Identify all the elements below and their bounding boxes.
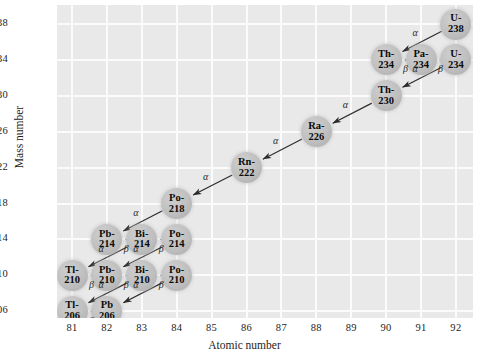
x-tick-label: 84 — [162, 322, 192, 333]
nuclide-mass-number: 206 — [64, 311, 80, 318]
nuclide-node-bi-210: Bi-210 — [126, 260, 157, 291]
x-tick-label: 92 — [441, 322, 471, 333]
y-tick-label: 218 — [0, 197, 8, 208]
decay-label-alpha: α — [133, 278, 138, 289]
y-tick-value: 214 — [0, 232, 8, 243]
y-tick-label: 210 — [0, 268, 8, 279]
decay-label-alpha: α — [133, 206, 138, 217]
y-tick-label: 206 — [0, 304, 8, 315]
y-tick-value: 226 — [0, 125, 8, 136]
nuclide-node-po-218: Po-218 — [161, 188, 192, 219]
x-tick-label: 86 — [232, 322, 262, 333]
y-tick-value: 230 — [0, 89, 8, 100]
y-tick-label: 234 — [0, 53, 8, 64]
x-tick-label: 91 — [406, 322, 436, 333]
x-tick-label: 81 — [57, 322, 87, 333]
nuclide-mass-number: 234 — [448, 60, 464, 71]
decay-label-alpha: α — [412, 27, 417, 38]
x-tick-label: 89 — [336, 322, 366, 333]
nuclide-element-symbol: Rn- — [238, 157, 255, 168]
y-tick-value: 238 — [0, 17, 8, 28]
nuclide-mass-number: 238 — [448, 24, 464, 35]
plot-area: U-238Th-234Pa-234U-234Th-230Ra-226Rn-222… — [57, 5, 473, 318]
y-tick-label: 226 — [0, 125, 8, 136]
decay-label-alpha: α — [98, 242, 103, 253]
nuclide-node-th-234: Th-234 — [371, 44, 402, 75]
nuclide-mass-number: 218 — [169, 204, 185, 215]
y-tick-value: 206 — [0, 304, 8, 315]
y-tick-label: 214 — [0, 232, 8, 243]
nuclide-mass-number: 226 — [308, 132, 324, 143]
decay-label-beta: β — [159, 242, 164, 253]
nuclide-mass-number: 234 — [378, 60, 394, 71]
nuclide-mass-number: 210 — [169, 275, 185, 286]
nuclide-node-po-214: Po-214 — [161, 224, 192, 255]
decay-label-beta: β — [403, 63, 408, 74]
y-tick-label: 238 — [0, 17, 8, 28]
nuclide-node-u-238: U-238 — [440, 9, 471, 40]
nuclide-node-pb-210: Pb-210 — [91, 260, 122, 291]
nuclide-mass-number: 206 — [99, 311, 115, 318]
nuclide-mass-number: 214 — [169, 239, 185, 250]
nuclide-node-tl-206: Tl-206 — [57, 296, 88, 318]
y-tick-value: 234 — [0, 53, 8, 64]
y-tick-value: 210 — [0, 268, 8, 279]
nuclide-mass-number: 222 — [239, 168, 255, 179]
decay-label-beta: β — [124, 242, 129, 253]
decay-label-alpha: α — [203, 170, 208, 181]
x-tick-label: 82 — [92, 322, 122, 333]
y-tick-value: 222 — [0, 161, 8, 172]
nuclide-element-symbol: Po- — [169, 193, 184, 204]
decay-label-alpha: α — [273, 135, 278, 146]
decay-label-beta: β — [159, 278, 164, 289]
decay-arrow-alpha — [333, 103, 372, 123]
decay-label-beta: β — [89, 278, 94, 289]
nuclide-node-po-210: Po-210 — [161, 260, 192, 291]
nuclide-node-tl-210: Tl-210 — [57, 260, 88, 291]
decay-label-beta: β — [89, 314, 94, 318]
decay-label-beta: β — [124, 278, 129, 289]
y-tick-value: 218 — [0, 197, 8, 208]
decay-label-beta: β — [438, 63, 443, 74]
nuclide-mass-number: 210 — [64, 275, 80, 286]
decay-label-alpha: α — [343, 99, 348, 110]
y-tick-label: 222 — [0, 161, 8, 172]
decay-label-alpha: α — [98, 278, 103, 289]
decay-label-alpha: α — [412, 63, 417, 74]
nuclide-node-bi-214: Bi-214 — [126, 224, 157, 255]
decay-arrow-alpha — [263, 139, 302, 159]
decay-label-alpha: α — [133, 242, 138, 253]
nuclide-mass-number: 230 — [378, 96, 394, 107]
x-tick-label: 85 — [197, 322, 227, 333]
y-tick-label: 230 — [0, 89, 8, 100]
decay-arrow-alpha — [193, 175, 232, 195]
x-tick-label: 90 — [371, 322, 401, 333]
nuclide-node-rn-222: Rn-222 — [231, 152, 262, 183]
nuclide-node-ra-226: Ra-226 — [301, 116, 332, 147]
nuclide-node-pa-234: Pa-234 — [406, 44, 437, 75]
nuclide-node-th-230: Th-230 — [371, 80, 402, 111]
decay-chain-figure: U-238Th-234Pa-234U-234Th-230Ra-226Rn-222… — [0, 0, 489, 362]
x-tick-label: 88 — [301, 322, 331, 333]
x-tick-label: 83 — [127, 322, 157, 333]
x-tick-label: 87 — [266, 322, 296, 333]
x-axis-title: Atomic number — [0, 339, 489, 351]
y-axis-title: Mass number — [13, 87, 25, 187]
